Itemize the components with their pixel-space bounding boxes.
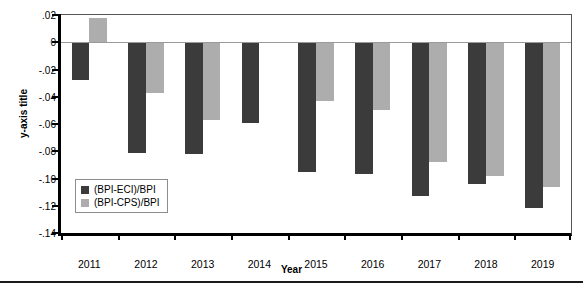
- bar-2014-eci: [242, 42, 260, 122]
- x-tick-mark: [458, 233, 460, 240]
- legend-swatch-icon-cps: [81, 199, 89, 207]
- x-tick-mark: [118, 233, 120, 240]
- zero-line: [61, 42, 571, 43]
- page-bottom-rule: [0, 281, 583, 283]
- y-tick-label: -.06: [39, 119, 56, 130]
- y-tick-label: 0: [50, 37, 56, 48]
- bar-2017-eci: [412, 42, 430, 196]
- y-tick-label: -.10: [39, 173, 56, 184]
- x-tick-mark: [231, 233, 233, 240]
- x-tick-mark: [174, 233, 176, 240]
- bar-2017-cps: [429, 42, 447, 162]
- y-tick-label: -.02: [39, 64, 56, 75]
- x-tick-mark: [288, 233, 290, 240]
- bar-2018-eci: [468, 42, 486, 184]
- legend-label-eci: (BPI-ECI)/BPI: [94, 184, 156, 195]
- x-tick-mark: [344, 233, 346, 240]
- legend-label-cps: (BPI-CPS)/BPI: [94, 197, 160, 208]
- bar-chart-figure: y-axis title .020-.02-.04-.06-.08-.10-.1…: [0, 0, 583, 285]
- bar-2015-eci: [298, 42, 316, 171]
- x-tick-mark: [569, 233, 571, 240]
- bar-2012-cps: [146, 42, 164, 92]
- bar-2011-cps: [89, 18, 107, 43]
- bar-2019-cps: [543, 42, 561, 186]
- x-tick-mark: [401, 233, 403, 240]
- x-tick-mark: [514, 233, 516, 240]
- legend-swatch-icon-eci: [81, 186, 89, 194]
- chart-legend: (BPI-ECI)/BPI (BPI-CPS)/BPI: [75, 179, 168, 213]
- bar-2016-cps: [373, 42, 391, 110]
- y-tick-label: .02: [42, 10, 56, 21]
- bar-2011-eci: [72, 42, 90, 80]
- bar-2015-cps: [316, 42, 334, 101]
- y-tick-label: -.04: [39, 91, 56, 102]
- bar-2013-cps: [203, 42, 221, 120]
- x-tick-mark: [61, 233, 63, 240]
- y-tick-label: -.14: [39, 228, 56, 239]
- bar-2019-eci: [525, 42, 543, 208]
- legend-item-eci: (BPI-ECI)/BPI: [81, 183, 160, 196]
- legend-item-cps: (BPI-CPS)/BPI: [81, 196, 160, 209]
- y-tick-label: -.08: [39, 146, 56, 157]
- y-tick-label: -.12: [39, 200, 56, 211]
- bar-2013-eci: [185, 42, 203, 154]
- y-axis-title: y-axis title: [18, 69, 29, 159]
- bar-2018-cps: [486, 42, 504, 176]
- bar-2012-eci: [128, 42, 146, 152]
- x-axis-title: Year: [0, 264, 583, 275]
- bar-2016-eci: [355, 42, 373, 174]
